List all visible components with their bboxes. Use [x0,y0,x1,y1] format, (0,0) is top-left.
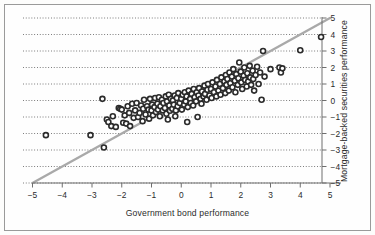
data-point [113,124,118,129]
y-tick-label: 0 [331,96,336,106]
data-point [247,63,252,68]
x-tick-label: 4 [298,190,303,200]
data-point [119,107,124,112]
x-tick-label: 0 [179,190,184,200]
data-point [231,67,236,72]
data-point [319,34,324,39]
x-tick-label: 5 [328,190,333,200]
x-tick-label: −5 [28,190,38,200]
x-tick-label: −4 [57,190,67,200]
data-point [157,114,162,119]
data-point [142,97,147,102]
x-tick-label: −3 [87,190,97,200]
data-point [140,119,145,124]
data-point [185,119,190,124]
data-point [148,96,153,101]
data-point [298,48,303,53]
data-point [43,133,48,138]
data-point [195,115,200,120]
x-tick-label: 2 [238,190,243,200]
data-point [268,67,273,72]
data-point [256,82,261,87]
x-tick-label: 3 [268,190,273,200]
data-point [233,90,238,95]
data-point [242,65,247,70]
data-point [230,85,235,90]
data-point [110,114,115,119]
data-point [258,70,263,75]
y-tick-label: 4 [331,30,336,40]
data-point [280,66,285,71]
x-tick-label: −1 [147,190,157,200]
data-point [259,97,264,102]
data-point [127,110,132,115]
data-points [43,34,323,150]
x-tick-label: −2 [117,190,127,200]
chart-figure: −5−4−3−2−1012345−5−4−3−2−1012345 Governm… [0,0,375,235]
data-point [100,96,105,101]
data-point [249,82,254,87]
data-point [255,64,260,69]
data-point [101,145,106,150]
x-tick-label: 1 [209,190,214,200]
x-axis-label: Government bond performance [0,208,375,218]
data-point [165,117,170,122]
data-point [262,74,267,79]
data-point [88,133,93,138]
y-tick-label: 1 [331,79,336,89]
scatter-plot: −5−4−3−2−1012345−5−4−3−2−1012345 [0,0,375,235]
data-point [237,60,242,65]
y-tick-label: 5 [331,13,336,23]
y-tick-label: 2 [331,63,336,73]
data-point [173,114,178,119]
data-point [128,124,133,129]
data-point [261,49,266,54]
data-point [252,88,257,93]
y-axis-label: Mortgage-backed securities performance [339,6,349,196]
y-tick-label: 3 [331,46,336,56]
data-point [199,101,204,106]
